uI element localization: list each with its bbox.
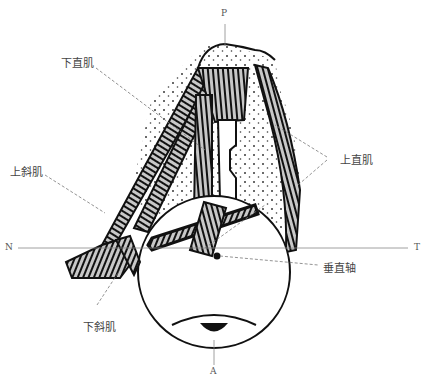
label-superior-rectus: 上直肌 [340,151,373,167]
label-inferior-rectus: 下直肌 [61,54,94,70]
axis-label-nasal: N [5,242,13,252]
label-vertical-axis: 垂直轴 [323,259,356,275]
label-superior-oblique: 上斜肌 [10,163,43,179]
vertical-axis-point [214,253,221,260]
label-inferior-oblique: 下斜肌 [83,318,116,334]
axis-label-posterior: P [221,8,227,18]
axis-label-anterior: A [210,366,217,376]
axis-label-temporal: T [414,242,420,252]
